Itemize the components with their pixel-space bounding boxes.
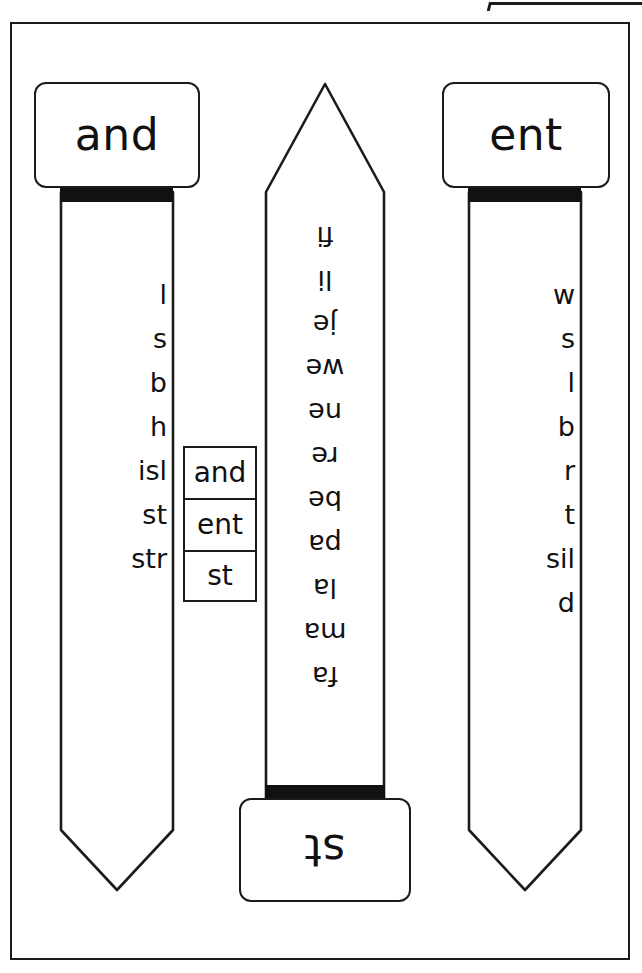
key-box-stack: and ent st (183, 446, 257, 602)
slider-onset-column-right: w s l b r t sil d (467, 272, 581, 624)
onset-item: st (59, 492, 173, 536)
slider-label-card-middle: st (239, 798, 411, 902)
onset-item: isl (59, 448, 173, 492)
onset-item: fa (266, 655, 384, 699)
slider-slot-middle (265, 785, 385, 799)
onset-item: be (266, 479, 384, 523)
slider-label-right: ent (489, 113, 563, 157)
onset-item: b (59, 360, 173, 404)
page-edge-rule (489, 2, 642, 5)
onset-item: l (59, 272, 173, 316)
key-box[interactable]: and (183, 446, 257, 498)
onset-item: h (59, 404, 173, 448)
page-edge-tick (487, 2, 492, 11)
slider-onset-column-left: l s b h isl st str (59, 272, 173, 580)
slider-label-left: and (75, 113, 159, 157)
onset-item: s (467, 316, 581, 360)
onset-item: w (467, 272, 581, 316)
slider-label-card-left: and (34, 82, 200, 188)
slider-slot-right (468, 188, 581, 202)
slider-label-middle: st (304, 828, 345, 872)
onset-item: la (266, 567, 384, 611)
onset-item: s (59, 316, 173, 360)
slider-onset-column-middle: fa ma la pa be re ne we je li fi (266, 215, 384, 699)
slider-slot-left (60, 188, 173, 202)
worksheet-page: and l s b h isl st str st fa ma la pa be… (0, 0, 642, 973)
slider-label-card-right: ent (442, 82, 610, 188)
onset-item: we (266, 347, 384, 391)
key-box[interactable]: ent (183, 498, 257, 550)
onset-item: je (266, 303, 384, 347)
key-box[interactable]: st (183, 550, 257, 602)
onset-item: li (266, 259, 384, 303)
onset-item: d (467, 580, 581, 624)
onset-item: b (467, 404, 581, 448)
onset-item: l (467, 360, 581, 404)
onset-item: re (266, 435, 384, 479)
onset-item: ne (266, 391, 384, 435)
onset-item: pa (266, 523, 384, 567)
onset-item: t (467, 492, 581, 536)
onset-item: str (59, 536, 173, 580)
onset-item: r (467, 448, 581, 492)
onset-item: ma (266, 611, 384, 655)
onset-item: fi (266, 215, 384, 259)
onset-item: sil (467, 536, 581, 580)
